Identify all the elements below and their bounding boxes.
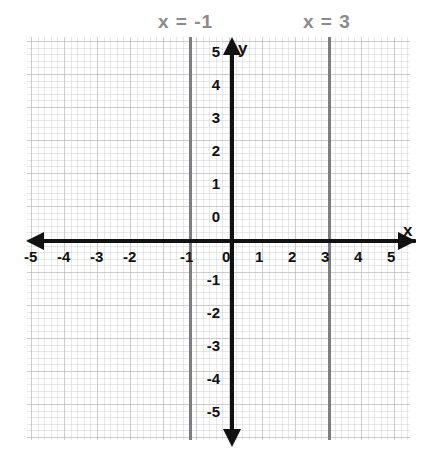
y-tick-label: 2 (196, 143, 220, 158)
y-tick-label: -3 (190, 338, 220, 353)
x-tick-label: -3 (90, 249, 103, 264)
label-line-x-equals-neg1: x = -1 (158, 12, 213, 31)
y-axis (230, 46, 234, 440)
coordinate-plane-figure: x = -1 x = 3 y x -5 -4 -3 -2 -1 0 1 2 3 … (0, 0, 435, 456)
label-line-x-equals-3: x = 3 (303, 12, 351, 31)
y-tick-label: -1 (190, 272, 220, 287)
x-tick-label: -2 (123, 249, 136, 264)
y-tick-label: 4 (196, 77, 220, 92)
x-tick-label: 3 (321, 249, 329, 264)
y-axis-bottom-arrow (223, 429, 241, 447)
x-tick-label: 1 (255, 249, 263, 264)
y-tick-label: 5 (196, 44, 220, 59)
y-tick-label: -4 (190, 371, 220, 386)
x-tick-label: -4 (57, 249, 70, 264)
y-tick-label: -5 (190, 404, 220, 419)
x-tick-label-origin: 0 (222, 249, 230, 264)
x-tick-label: 5 (387, 249, 395, 264)
x-tick-label: 4 (354, 249, 362, 264)
y-tick-label-zero: 0 (196, 209, 220, 224)
y-tick-label: 1 (196, 176, 220, 191)
x-axis-label: x (403, 222, 412, 239)
x-tick-label: -5 (24, 249, 37, 264)
x-axis (34, 239, 416, 243)
y-tick-label: -2 (190, 305, 220, 320)
y-axis-label: y (238, 40, 247, 57)
y-tick-label: 3 (196, 110, 220, 125)
x-tick-label: -1 (180, 249, 193, 264)
x-tick-label: 2 (288, 249, 296, 264)
